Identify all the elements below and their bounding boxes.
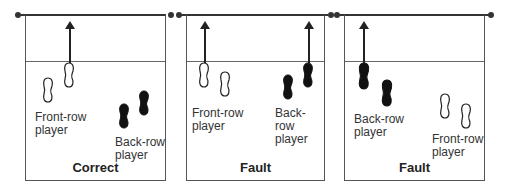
- back-row-label: Back-row player: [275, 107, 324, 146]
- verdict-label: Fault: [187, 160, 324, 175]
- back-row-foot-icon: [118, 103, 130, 129]
- back-row-label: Back-row player: [115, 136, 165, 162]
- court-panel-fault-1: Front-row player Back-row player Fault: [186, 15, 325, 181]
- front-row-foot-icon: [42, 77, 54, 103]
- arrow-up-icon: [304, 21, 314, 29]
- arrow-shaft: [69, 24, 71, 63]
- arrow-up-icon: [65, 21, 75, 29]
- court-panel-fault-2: Back-row player Front-row player Fault: [344, 15, 485, 181]
- verdict-label: Fault: [345, 160, 484, 175]
- back-row-label: Back-row player: [354, 113, 404, 139]
- arrow-up-icon: [200, 21, 210, 29]
- net-post-icon: [334, 12, 340, 18]
- back-row-foot-icon: [357, 62, 371, 90]
- arrow-shaft: [363, 24, 365, 63]
- net-post-icon: [15, 12, 21, 18]
- front-row-foot-icon: [460, 103, 472, 129]
- front-row-foot-icon: [439, 93, 451, 119]
- attack-line: [26, 61, 165, 62]
- back-row-foot-icon: [302, 62, 314, 88]
- arrow-shaft: [204, 24, 206, 63]
- arrow-up-icon: [359, 21, 369, 29]
- arrow-shaft: [308, 24, 310, 63]
- back-row-foot-icon: [380, 79, 394, 107]
- verdict-label: Correct: [26, 160, 165, 175]
- court-panel-correct: Front-row player Back-row player Correct: [25, 15, 166, 181]
- front-row-label: Front-row player: [432, 133, 483, 159]
- net-post-icon: [168, 12, 174, 18]
- front-row-label: Front-row player: [35, 111, 86, 137]
- back-row-foot-icon: [282, 74, 294, 100]
- front-row-foot-icon: [198, 62, 210, 88]
- back-row-foot-icon: [138, 90, 150, 116]
- net-post-icon: [488, 12, 494, 18]
- front-row-foot-icon: [63, 62, 75, 88]
- net-post-icon: [176, 12, 182, 18]
- front-row-label: Front-row player: [192, 107, 243, 133]
- front-row-foot-icon: [219, 71, 231, 97]
